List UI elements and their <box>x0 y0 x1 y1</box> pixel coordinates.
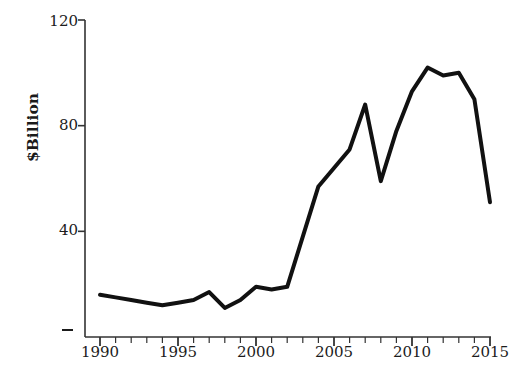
x-tick-marks <box>100 337 490 346</box>
y-tick-marks <box>78 20 85 231</box>
line-chart-figure: $Billion 120 80 40 1990 1995 2000 2005 2… <box>0 0 511 383</box>
data-line-series-billion <box>100 68 490 308</box>
chart-canvas <box>0 0 511 383</box>
